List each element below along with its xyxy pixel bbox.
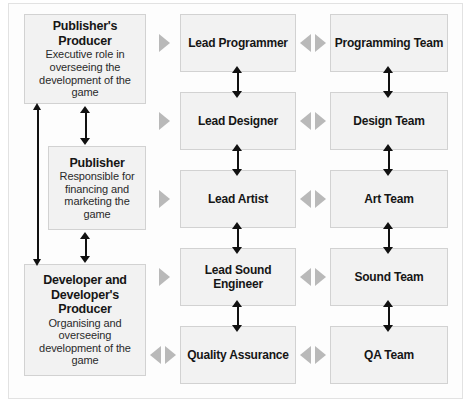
box-title: QA Team — [364, 348, 414, 362]
connector-left-to-lead-designer-right-icon — [159, 112, 170, 130]
connector-left-to-quality-assurance-left-icon — [150, 346, 161, 364]
box-title: Lead Designer — [198, 114, 278, 128]
box-quality-assurance[interactable]: Quality Assurance — [180, 326, 296, 384]
box-developer-and-developers-producer[interactable]: Developer and Developer's Producer Organ… — [24, 264, 146, 376]
arrow-lead-sound-engineer-quality-assurance — [232, 300, 243, 332]
box-sound-team[interactable]: Sound Team — [330, 248, 448, 306]
connector-lead-sound-engineer-to-sound-team-right-icon — [315, 268, 326, 286]
box-title: Lead Programmer — [188, 36, 288, 50]
arrow-publishers-producer-developer-outer — [33, 103, 42, 266]
box-lead-artist[interactable]: Lead Artist — [180, 170, 296, 228]
box-title: Lead Sound Engineer — [184, 263, 292, 291]
connector-quality-assurance-to-qa-team-right-icon — [315, 346, 326, 364]
box-design-team[interactable]: Design Team — [330, 92, 448, 150]
arrow-design-team-art-team — [383, 144, 394, 176]
arrow-programming-team-design-team — [383, 66, 394, 98]
box-title: Lead Artist — [208, 192, 268, 206]
box-lead-sound-engineer[interactable]: Lead Sound Engineer — [180, 248, 296, 306]
arrow-lead-artist-lead-sound-engineer — [232, 222, 243, 254]
arrow-publishers-producer-publisher — [80, 106, 91, 145]
box-programming-team[interactable]: Programming Team — [330, 14, 448, 72]
box-description: Executive role in overseeing the develop… — [28, 48, 142, 98]
connector-left-to-lead-artist-right-icon — [159, 190, 170, 208]
box-title: Programming Team — [335, 36, 444, 50]
arrow-art-team-sound-team — [383, 222, 394, 254]
box-publisher[interactable]: Publisher Responsible for financing and … — [48, 146, 146, 230]
connector-quality-assurance-to-qa-team-left-icon — [300, 346, 311, 364]
box-title: Art Team — [364, 192, 414, 206]
box-description: Responsible for financing and marketing … — [52, 170, 142, 220]
box-title: Publisher — [69, 156, 124, 171]
box-title: Developer and Developer's Producer — [28, 273, 142, 317]
box-publishers-producer[interactable]: Publisher's Producer Executive role in o… — [24, 14, 146, 104]
arrow-lead-programmer-lead-designer — [232, 66, 243, 98]
connector-lead-programmer-to-programming-team-right-icon — [315, 34, 326, 52]
box-title: Quality Assurance — [187, 348, 289, 362]
connector-lead-artist-to-art-team-left-icon — [300, 190, 311, 208]
arrow-lead-designer-lead-artist — [232, 144, 243, 176]
connector-lead-sound-engineer-to-sound-team-left-icon — [300, 268, 311, 286]
box-title: Publisher's Producer — [28, 19, 142, 48]
connector-lead-programmer-to-programming-team-left-icon — [300, 34, 311, 52]
box-title: Design Team — [353, 114, 425, 128]
connector-lead-artist-to-art-team-right-icon — [315, 190, 326, 208]
connector-lead-designer-to-design-team-left-icon — [300, 112, 311, 130]
box-lead-designer[interactable]: Lead Designer — [180, 92, 296, 150]
connector-lead-designer-to-design-team-right-icon — [315, 112, 326, 130]
box-qa-team[interactable]: QA Team — [330, 326, 448, 384]
connector-left-to-lead-sound-engineer-right-icon — [159, 268, 170, 286]
arrow-sound-team-qa-team — [383, 300, 394, 332]
box-lead-programmer[interactable]: Lead Programmer — [180, 14, 296, 72]
connector-left-to-quality-assurance-right-icon — [165, 346, 176, 364]
connector-left-to-lead-programmer-right-icon — [159, 34, 170, 52]
box-art-team[interactable]: Art Team — [330, 170, 448, 228]
org-chart-diagram: Publisher's Producer Executive role in o… — [0, 0, 469, 405]
box-description: Organising and overseeing development of… — [28, 317, 142, 367]
box-title: Sound Team — [354, 270, 423, 284]
arrow-publisher-developer — [80, 232, 91, 263]
